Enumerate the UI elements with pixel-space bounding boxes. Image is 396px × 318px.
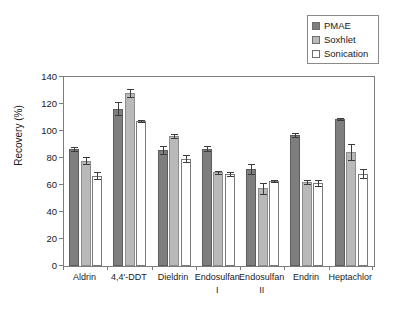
error-bar-cap [360,178,367,179]
error-bar-cap [138,122,145,123]
bar-group [64,77,108,266]
error-bar-cap [127,89,134,90]
error-bar-cap [292,133,299,134]
legend-label-sonication: Sonication [324,48,368,59]
legend-label-pmae: PMAE [324,20,351,31]
error-bar-cap [348,160,355,161]
bar-pmae [335,119,345,266]
x-tick-label-main: Dieldrin [158,272,189,282]
bar-group [285,77,329,266]
x-tick-label-main: Endosulfan [239,272,284,282]
bar-sonication [225,174,235,266]
x-tick-label-sub: I [195,285,240,296]
error-bar-cap [94,172,101,173]
x-tick-label: Dieldrin [158,272,189,283]
x-tick-mark [372,266,373,270]
error-bar-cap [94,179,101,180]
error-bar-cap [315,186,322,187]
legend-item-sonication: Sonication [312,47,374,60]
bar-pmae [69,149,79,266]
error-bar-line [97,172,98,179]
error-bar-cap [83,157,90,158]
error-bar-line [130,89,131,97]
error-bar-cap [138,120,145,121]
bar-pmae [158,150,168,266]
error-bar-cap [127,97,134,98]
error-bar-line [251,164,252,173]
x-tick-mark [240,266,241,270]
x-tick-mark [196,266,197,270]
error-bar-cap [71,151,78,152]
bar-soxhlet [258,188,268,266]
x-tick-label: Heptachlor [328,272,372,283]
bar-sonication [269,181,279,266]
legend-swatch-sonication [312,50,320,58]
x-tick-label-sub: II [239,285,284,296]
error-bar-cap [183,162,190,163]
legend-label-soxhlet: Soxhlet [324,34,356,45]
error-bar-line [86,157,87,164]
bar-group [330,77,374,266]
legend-swatch-pmae [312,22,320,30]
plot-frame [63,76,375,267]
x-tick-label: Endrin [293,272,319,283]
y-tick-label: 100 [41,125,57,136]
error-bar-line [163,146,164,154]
error-bar-line [351,144,352,160]
y-axis-title: Recovery (%) [13,86,24,186]
y-axis-tick-labels: 020406080100120140 [29,76,57,265]
bar-group [108,77,152,266]
x-axis-tick-labels: Aldrin4,4'-DDTDieldrinEndosulfanIEndosul… [63,272,373,306]
x-tick-label-main: Heptachlor [328,272,372,282]
x-tick-label-main: Endrin [293,272,319,282]
bar-group [241,77,285,266]
y-axis-tick-marks [56,76,63,265]
legend-item-soxhlet: Soxhlet [312,33,374,46]
x-tick-label: Aldrin [73,272,96,283]
bar-pmae [290,135,300,266]
error-bar-cap [171,134,178,135]
bar-sonication [92,176,102,266]
error-bar-line [118,102,119,116]
bar-soxhlet [125,93,135,266]
bar-sonication [136,121,146,266]
bar-pmae [246,169,256,266]
bar-pmae [202,149,212,266]
error-bar-cap [115,115,122,116]
error-bar-cap [83,164,90,165]
x-tick-label: EndosulfanI [195,272,240,296]
x-tick-mark [284,266,285,270]
x-tick-mark [152,266,153,270]
error-bar-cap [71,147,78,148]
bar-soxhlet [81,161,91,266]
x-tick-mark [329,266,330,270]
error-bar-cap [348,144,355,145]
x-axis-tick-marks [63,266,373,271]
x-tick-label: 4,4'-DDT [111,272,147,283]
x-tick-mark [107,266,108,270]
legend-swatch-soxhlet [312,36,320,44]
error-bar-cap [160,154,167,155]
error-bar-cap [204,151,211,152]
error-bar-cap [215,174,222,175]
error-bar-cap [115,102,122,103]
error-bar-line [363,169,364,177]
bar-sonication [181,159,191,266]
plot-area [64,77,374,266]
error-bar-cap [271,180,278,181]
bar-soxhlet [346,152,356,266]
error-bar-cap [304,184,311,185]
chart-legend: PMAE Soxhlet Sonication [307,15,379,64]
error-bar-cap [183,155,190,156]
error-bar-cap [204,146,211,147]
x-tick-mark [63,266,64,270]
error-bar-line [263,183,264,194]
error-bar-cap [260,183,267,184]
error-bar-cap [360,169,367,170]
error-bar-cap [160,146,167,147]
bar-sonication [358,174,368,266]
error-bar-cap [271,182,278,183]
bar-soxhlet [302,182,312,266]
y-tick-label: 140 [41,71,57,82]
y-tick-label: 120 [41,98,57,109]
